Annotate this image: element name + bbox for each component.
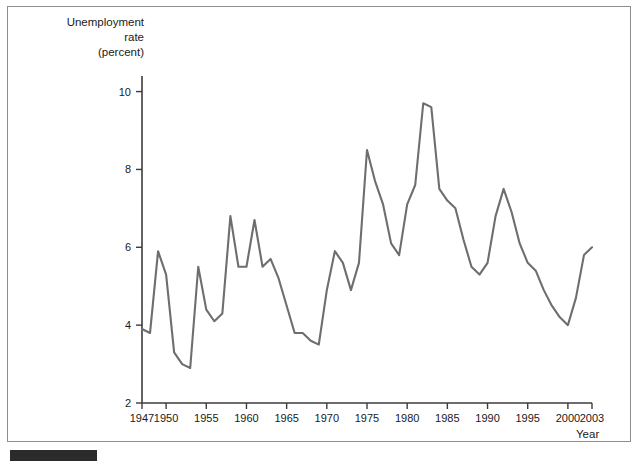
x-axis-ticks: 1947195019551960196519701975198019851990… [130, 403, 604, 424]
x-tick-label: 1970 [315, 412, 339, 424]
y-tick-label: 2 [125, 397, 131, 409]
footer-black-bar [10, 450, 97, 461]
x-tick-label: 1990 [475, 412, 499, 424]
unemployment-rate-series [142, 103, 592, 368]
x-tick-label: 1995 [515, 412, 539, 424]
x-tick-label: 1965 [274, 412, 298, 424]
figure-frame: Unemployment rate (percent) Year 246810 … [7, 6, 631, 442]
x-tick-label: 1950 [154, 412, 178, 424]
x-tick-label: 2003 [580, 412, 604, 424]
x-tick-label: 2000 [556, 412, 580, 424]
x-tick-label: 1975 [355, 412, 379, 424]
x-tick-label: 1980 [395, 412, 419, 424]
x-tick-label: 1955 [194, 412, 218, 424]
chart-svg: 246810 194719501955196019651970197519801… [8, 7, 632, 443]
y-tick-label: 10 [119, 86, 131, 98]
y-tick-label: 6 [125, 241, 131, 253]
x-tick-label: 1960 [234, 412, 258, 424]
y-tick-label: 8 [125, 163, 131, 175]
y-axis-ticks: 246810 [119, 86, 142, 409]
y-tick-label: 4 [125, 319, 131, 331]
x-tick-label: 1985 [435, 412, 459, 424]
line-chart: 246810 194719501955196019651970197519801… [8, 7, 632, 443]
x-tick-label: 1947 [130, 412, 154, 424]
